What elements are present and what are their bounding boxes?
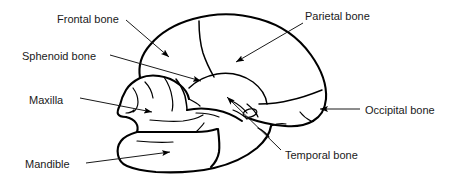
label-maxilla: Maxilla [29, 95, 63, 106]
leader-sphenoid-bone [110, 55, 201, 81]
coronal-suture [199, 21, 214, 77]
leader-frontal-bone [126, 20, 169, 57]
lambdoid-suture [259, 90, 322, 104]
label-sphenoid-bone: Sphenoid bone [22, 51, 96, 62]
cranial-vault-outline [139, 15, 326, 122]
leader-mandible [86, 152, 170, 163]
squamous-suture [189, 73, 267, 104]
skull-illustration [0, 0, 462, 182]
label-occipital-bone: Occipital bone [365, 105, 435, 116]
skull-diagram: Frontal bone Sphenoid bone Maxilla Mandi… [0, 0, 462, 182]
leader-maxilla [80, 98, 152, 112]
label-temporal-bone: Temporal bone [285, 150, 358, 161]
maxilla-outline [126, 115, 217, 132]
leader-parietal-bone [236, 23, 303, 62]
sphenoid-and-orbit [140, 76, 200, 111]
label-mandible: Mandible [25, 159, 70, 170]
label-parietal-bone: Parietal bone [305, 11, 370, 22]
label-frontal-bone: Frontal bone [57, 14, 119, 25]
zygomatic-arch [187, 107, 258, 121]
